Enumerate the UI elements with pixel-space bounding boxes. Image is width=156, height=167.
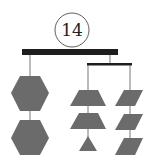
sub-bar <box>87 63 132 66</box>
hexagon-shape <box>11 76 49 111</box>
triangle-shape <box>79 136 97 151</box>
puzzle-number-badge: 14 <box>55 13 89 47</box>
left-chain <box>11 55 49 155</box>
hexagon-shape <box>11 120 49 155</box>
puzzle-number: 14 <box>61 20 83 40</box>
subbar-right-chain <box>115 65 143 155</box>
parallelogram-shape <box>115 114 143 130</box>
top-bar <box>22 49 118 55</box>
mobile-diagram: 14 <box>0 0 156 167</box>
parallelogram-shape <box>115 138 143 155</box>
trapezoid-shape <box>70 113 106 129</box>
trapezoid-shape <box>70 90 106 106</box>
parallelogram-shape <box>115 90 143 106</box>
subbar-left-chain <box>70 65 106 151</box>
